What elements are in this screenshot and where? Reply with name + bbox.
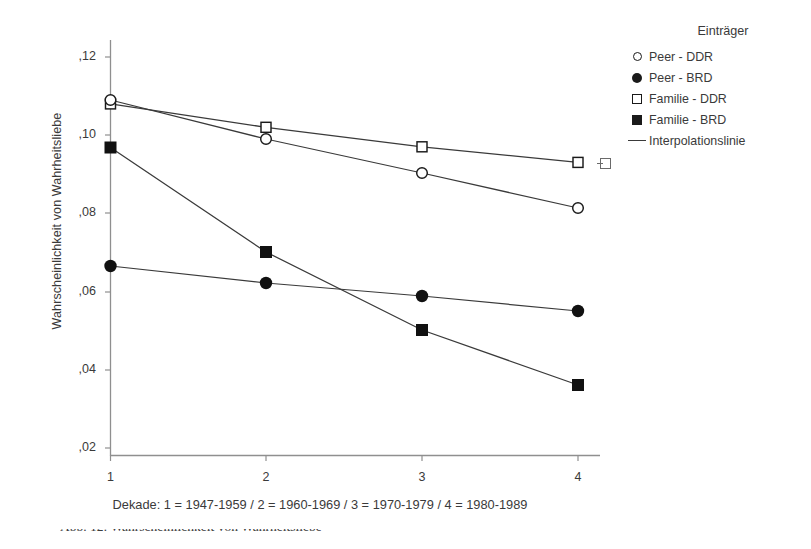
y-axis-title: Wahrscheinlichkeit von Wahrheitsliebe [50,31,64,411]
data-point-familie-brd-4 [572,379,584,391]
data-point-peer-ddr-4 [573,203,584,214]
data-point-familie-ddr-4 [573,157,583,167]
series-peer-ddr [105,95,583,214]
open-circle-icon [626,46,648,67]
x-tick-marks [111,456,579,462]
legend-item-label: Interpolationslinie [648,134,745,148]
data-point-familie-ddr-3 [417,142,427,152]
data-point-peer-ddr-3 [417,168,428,179]
data-point-peer-brd-2 [260,277,272,289]
x-axis-caption: Dekade: 1 = 1947-1959 / 2 = 1960-1969 / … [60,497,580,512]
legend-item-peer-ddr[interactable]: Peer - DDR [626,46,806,67]
x-tick-label-3: 3 [407,470,437,484]
legend-item-interpolationslinie[interactable]: Interpolationslinie [626,130,806,151]
x-tick-label-4: 4 [563,470,593,484]
legend-item-familie-ddr[interactable]: Familie - DDR [626,88,806,109]
legend-item-label: Familie - BRD [648,113,726,127]
x-tick-label-2: 2 [251,470,281,484]
x-tick-label-1: 1 [96,470,126,484]
y-tick-label-10: ,10 [52,127,96,141]
y-tick-marks [105,57,111,448]
scan-artifact-icon [600,158,611,169]
y-tick-label-04: ,04 [52,362,96,376]
series-familie-brd [105,142,585,392]
open-square-icon [626,88,648,109]
data-point-familie-brd-3 [416,324,428,336]
chart-legend: Einträger Peer - DDR Peer - BRD Familie … [626,24,806,151]
filled-square-icon [626,109,648,130]
data-point-familie-brd-2 [260,246,272,258]
legend-title: Einträger [640,24,806,38]
data-point-familie-ddr-2 [261,122,271,132]
data-point-peer-brd-4 [572,305,584,317]
y-tick-label-06: ,06 [52,284,96,298]
data-point-peer-brd-3 [416,290,428,302]
series-peer-brd [104,260,584,317]
legend-item-label: Peer - BRD [648,71,712,85]
series-familie-ddr [106,99,584,167]
legend-item-label: Peer - DDR [648,50,713,64]
chart-figure: Wahrscheinlichkeit von Wahrheitsliebe ,1… [0,0,811,549]
legend-item-peer-brd[interactable]: Peer - BRD [626,67,806,88]
data-point-peer-ddr-2 [261,134,272,145]
data-point-familie-brd-1 [105,142,117,154]
data-point-peer-brd-1 [104,260,116,272]
legend-item-label: Familie - DDR [648,92,727,106]
footer-clipped-text: Abb. 12: Wahrscheinlichkeit von Wahrheit… [60,523,322,535]
y-tick-label-02: ,02 [52,440,96,454]
y-tick-label-08: ,08 [52,205,96,219]
filled-circle-icon [626,67,648,88]
footer-bleed-strip: Abb. 12: Wahrscheinlichkeit von Wahrheit… [0,523,811,549]
line-icon [626,130,648,151]
data-point-peer-ddr-1 [105,95,116,106]
y-tick-label-12: ,12 [52,49,96,63]
legend-item-familie-brd[interactable]: Familie - BRD [626,109,806,130]
